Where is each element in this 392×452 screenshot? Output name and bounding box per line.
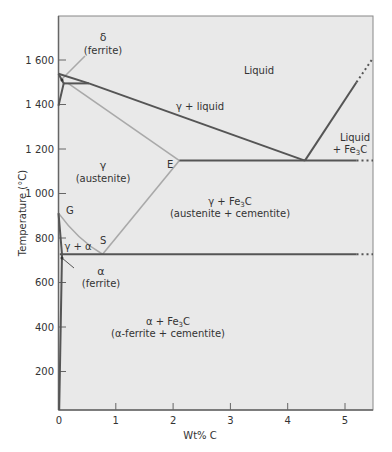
svg-text:400: 400 xyxy=(35,322,54,333)
gamma-alpha-label: γ + α xyxy=(64,241,92,252)
phase-diagram: 200 400 600 800 1 000 1 200 1 400 1 600 … xyxy=(0,0,392,452)
svg-text:200: 200 xyxy=(35,366,54,377)
point-e-label: E xyxy=(167,159,173,170)
delta-marker xyxy=(61,79,64,82)
delta-label: δ xyxy=(100,31,107,44)
gamma-liquid-label: γ + liquid xyxy=(176,101,224,112)
x-axis-title: Wt% C xyxy=(183,430,216,441)
delta-sub-label: (ferrite) xyxy=(84,45,122,56)
alpha-sub-label: (ferrite) xyxy=(82,278,120,289)
y-tick-labels: 200 400 600 800 1 000 1 200 1 400 1 600 xyxy=(25,55,54,378)
gamma-label: γ xyxy=(100,159,107,172)
svg-text:1 600: 1 600 xyxy=(25,55,54,66)
gamma-sub-label: (austenite) xyxy=(76,173,131,184)
liquid-fe3c-label-1: Liquid xyxy=(340,132,370,143)
alpha-label: α xyxy=(97,265,104,278)
svg-text:3: 3 xyxy=(227,415,233,426)
svg-text:0: 0 xyxy=(56,415,62,426)
alpha-marker xyxy=(61,257,64,260)
svg-text:800: 800 xyxy=(35,233,54,244)
svg-text:4: 4 xyxy=(285,415,291,426)
svg-text:1: 1 xyxy=(113,415,119,426)
y-axis-title: Temperature (°C) xyxy=(17,170,28,257)
svg-text:1 000: 1 000 xyxy=(25,188,54,199)
point-g-label: G xyxy=(66,205,74,216)
svg-text:1 200: 1 200 xyxy=(25,144,54,155)
svg-text:1 400: 1 400 xyxy=(25,99,54,110)
liquid-label: Liquid xyxy=(244,65,274,76)
gamma-fe3c-sub-label: (austenite + cementite) xyxy=(170,208,290,219)
svg-text:600: 600 xyxy=(35,277,54,288)
alpha-fe3c-sub-label: (α-ferrite + cementite) xyxy=(111,328,225,339)
svg-text:5: 5 xyxy=(342,415,348,426)
svg-text:2: 2 xyxy=(170,415,176,426)
point-s-label: S xyxy=(100,235,106,246)
x-tick-labels: 0 1 2 3 4 5 xyxy=(56,415,348,426)
